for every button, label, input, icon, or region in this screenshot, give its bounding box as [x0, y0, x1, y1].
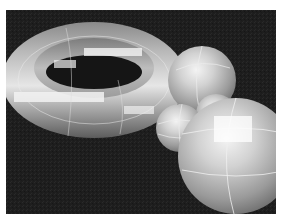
- render-canvas: [6, 10, 276, 214]
- render-scene: [6, 10, 276, 214]
